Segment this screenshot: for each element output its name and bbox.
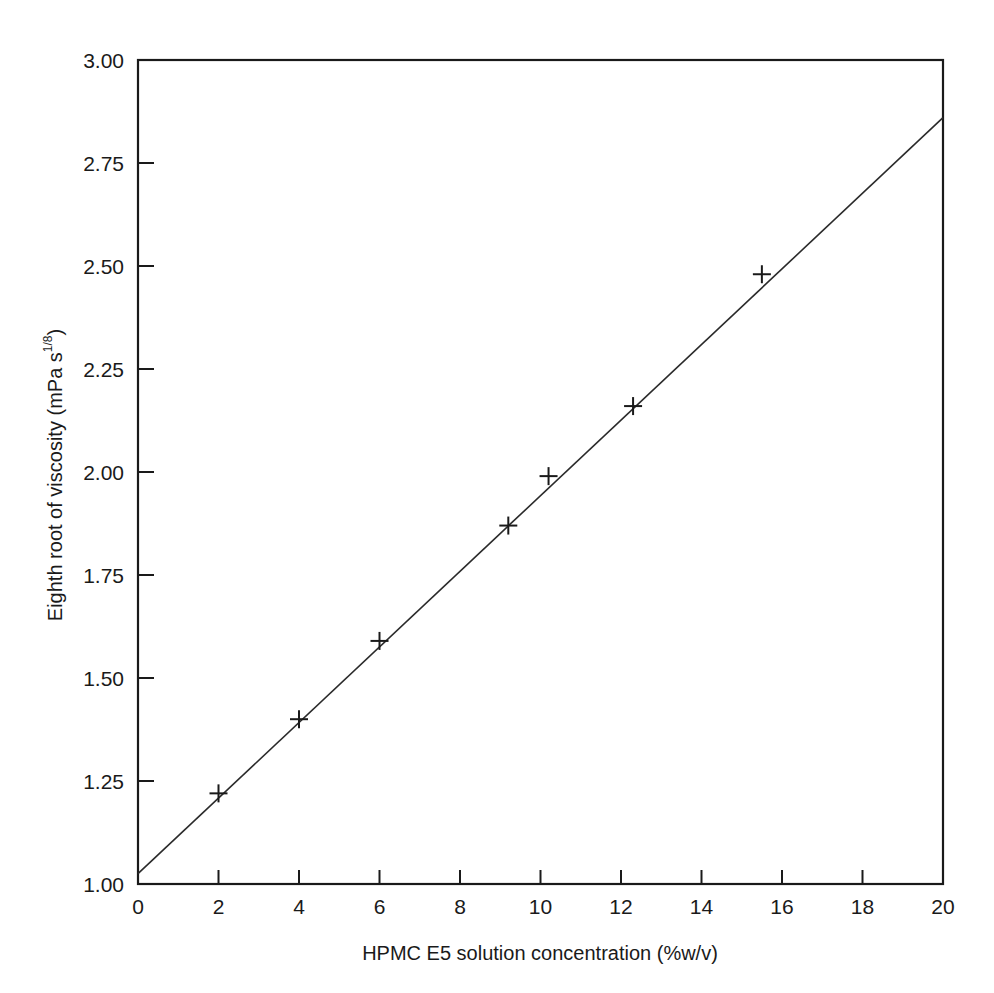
y-tick-label: 1.00 (83, 873, 124, 896)
x-tick-label: 20 (931, 895, 954, 918)
y-tick-label: 2.50 (83, 255, 124, 278)
y-axis: 1.001.251.501.752.002.252.502.753.00 (83, 49, 154, 896)
y-tick-label: 2.00 (83, 461, 124, 484)
y-axis-title-exponent: 1/8 (41, 335, 55, 352)
x-tick-label: 14 (690, 895, 714, 918)
x-tick-label: 2 (213, 895, 225, 918)
y-tick-label: 2.25 (83, 358, 124, 381)
x-tick-label: 18 (851, 895, 874, 918)
chart: 02468101214161820 1.001.251.501.752.002.… (0, 0, 994, 993)
x-tick-label: 8 (454, 895, 466, 918)
x-tick-label: 4 (293, 895, 305, 918)
y-tick-label: 2.75 (83, 152, 124, 175)
plus-marker-icon (210, 784, 228, 802)
x-tick-label: 12 (609, 895, 632, 918)
x-axis-title: HPMC E5 solution concentration (%w/v) (362, 942, 718, 964)
y-tick-label: 1.75 (83, 564, 124, 587)
regression-line (138, 118, 943, 874)
y-tick-label: 1.25 (83, 770, 124, 793)
x-tick-label: 16 (770, 895, 793, 918)
plus-marker-icon (290, 710, 308, 728)
plus-marker-icon (753, 265, 771, 283)
data-points (210, 265, 771, 802)
fit-line (138, 118, 943, 874)
x-tick-label: 10 (529, 895, 552, 918)
y-axis-title-text: Eighth root of viscosity (mPa s (44, 352, 66, 621)
plus-marker-icon (624, 397, 642, 415)
y-axis-title-close: ) (44, 329, 66, 336)
plus-marker-icon (371, 632, 389, 650)
x-tick-label: 6 (374, 895, 386, 918)
y-tick-label: 3.00 (83, 49, 124, 72)
x-tick-label: 0 (132, 895, 144, 918)
x-axis: 02468101214161820 (132, 870, 955, 918)
y-axis-title: Eighth root of viscosity (mPa s1/8) (41, 329, 66, 621)
y-tick-label: 1.50 (83, 667, 124, 690)
